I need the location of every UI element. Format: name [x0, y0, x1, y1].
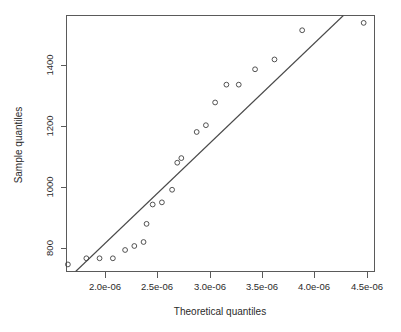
- data-point: [123, 248, 128, 253]
- qq-plot-figure: 2.0e-06 2.5e-06 3.0e-06 3.5e-06 4.0e-06 …: [0, 0, 401, 332]
- data-point: [194, 130, 199, 135]
- data-point: [179, 156, 184, 161]
- data-point: [97, 256, 102, 261]
- y-tick-label: 1400: [44, 54, 55, 75]
- data-point: [236, 82, 241, 87]
- data-point: [224, 82, 229, 87]
- data-point: [300, 28, 305, 33]
- data-point: [141, 240, 146, 245]
- data-point: [175, 160, 180, 165]
- x-tick-label: 3.0e-06: [194, 281, 226, 292]
- x-tick-label: 3.5e-06: [246, 281, 278, 292]
- data-point: [204, 123, 209, 128]
- x-axis-tick-labels: 2.0e-06 2.5e-06 3.0e-06 3.5e-06 4.0e-06 …: [89, 281, 383, 292]
- data-point: [170, 187, 175, 192]
- data-point: [213, 100, 218, 105]
- data-point: [150, 202, 155, 207]
- y-axis-ticks: [61, 66, 67, 249]
- plot-canvas: 2.0e-06 2.5e-06 3.0e-06 3.5e-06 4.0e-06 …: [0, 0, 401, 332]
- x-tick-label: 4.5e-06: [351, 281, 383, 292]
- x-tick-label: 2.0e-06: [89, 281, 121, 292]
- y-tick-label: 800: [44, 240, 55, 256]
- data-point: [132, 244, 137, 249]
- x-tick-label: 4.0e-06: [298, 281, 330, 292]
- data-point: [361, 20, 366, 25]
- qq-reference-line: [76, 16, 344, 272]
- x-axis-ticks: [106, 272, 368, 278]
- data-point: [253, 67, 258, 72]
- data-point: [144, 221, 149, 226]
- x-axis-title: Theoretical quantiles: [174, 306, 266, 317]
- plot-frame: [67, 16, 375, 272]
- x-tick-label: 2.5e-06: [141, 281, 173, 292]
- y-tick-label: 1200: [44, 115, 55, 136]
- data-points-group: [66, 20, 367, 266]
- data-point: [160, 200, 165, 205]
- y-axis-title: Sample quantiles: [13, 107, 24, 184]
- data-point: [110, 256, 115, 261]
- y-tick-label: 1000: [44, 176, 55, 197]
- y-axis-tick-labels: 800 1000 1200 1400: [44, 54, 55, 256]
- data-point: [272, 57, 277, 62]
- data-point: [84, 256, 89, 261]
